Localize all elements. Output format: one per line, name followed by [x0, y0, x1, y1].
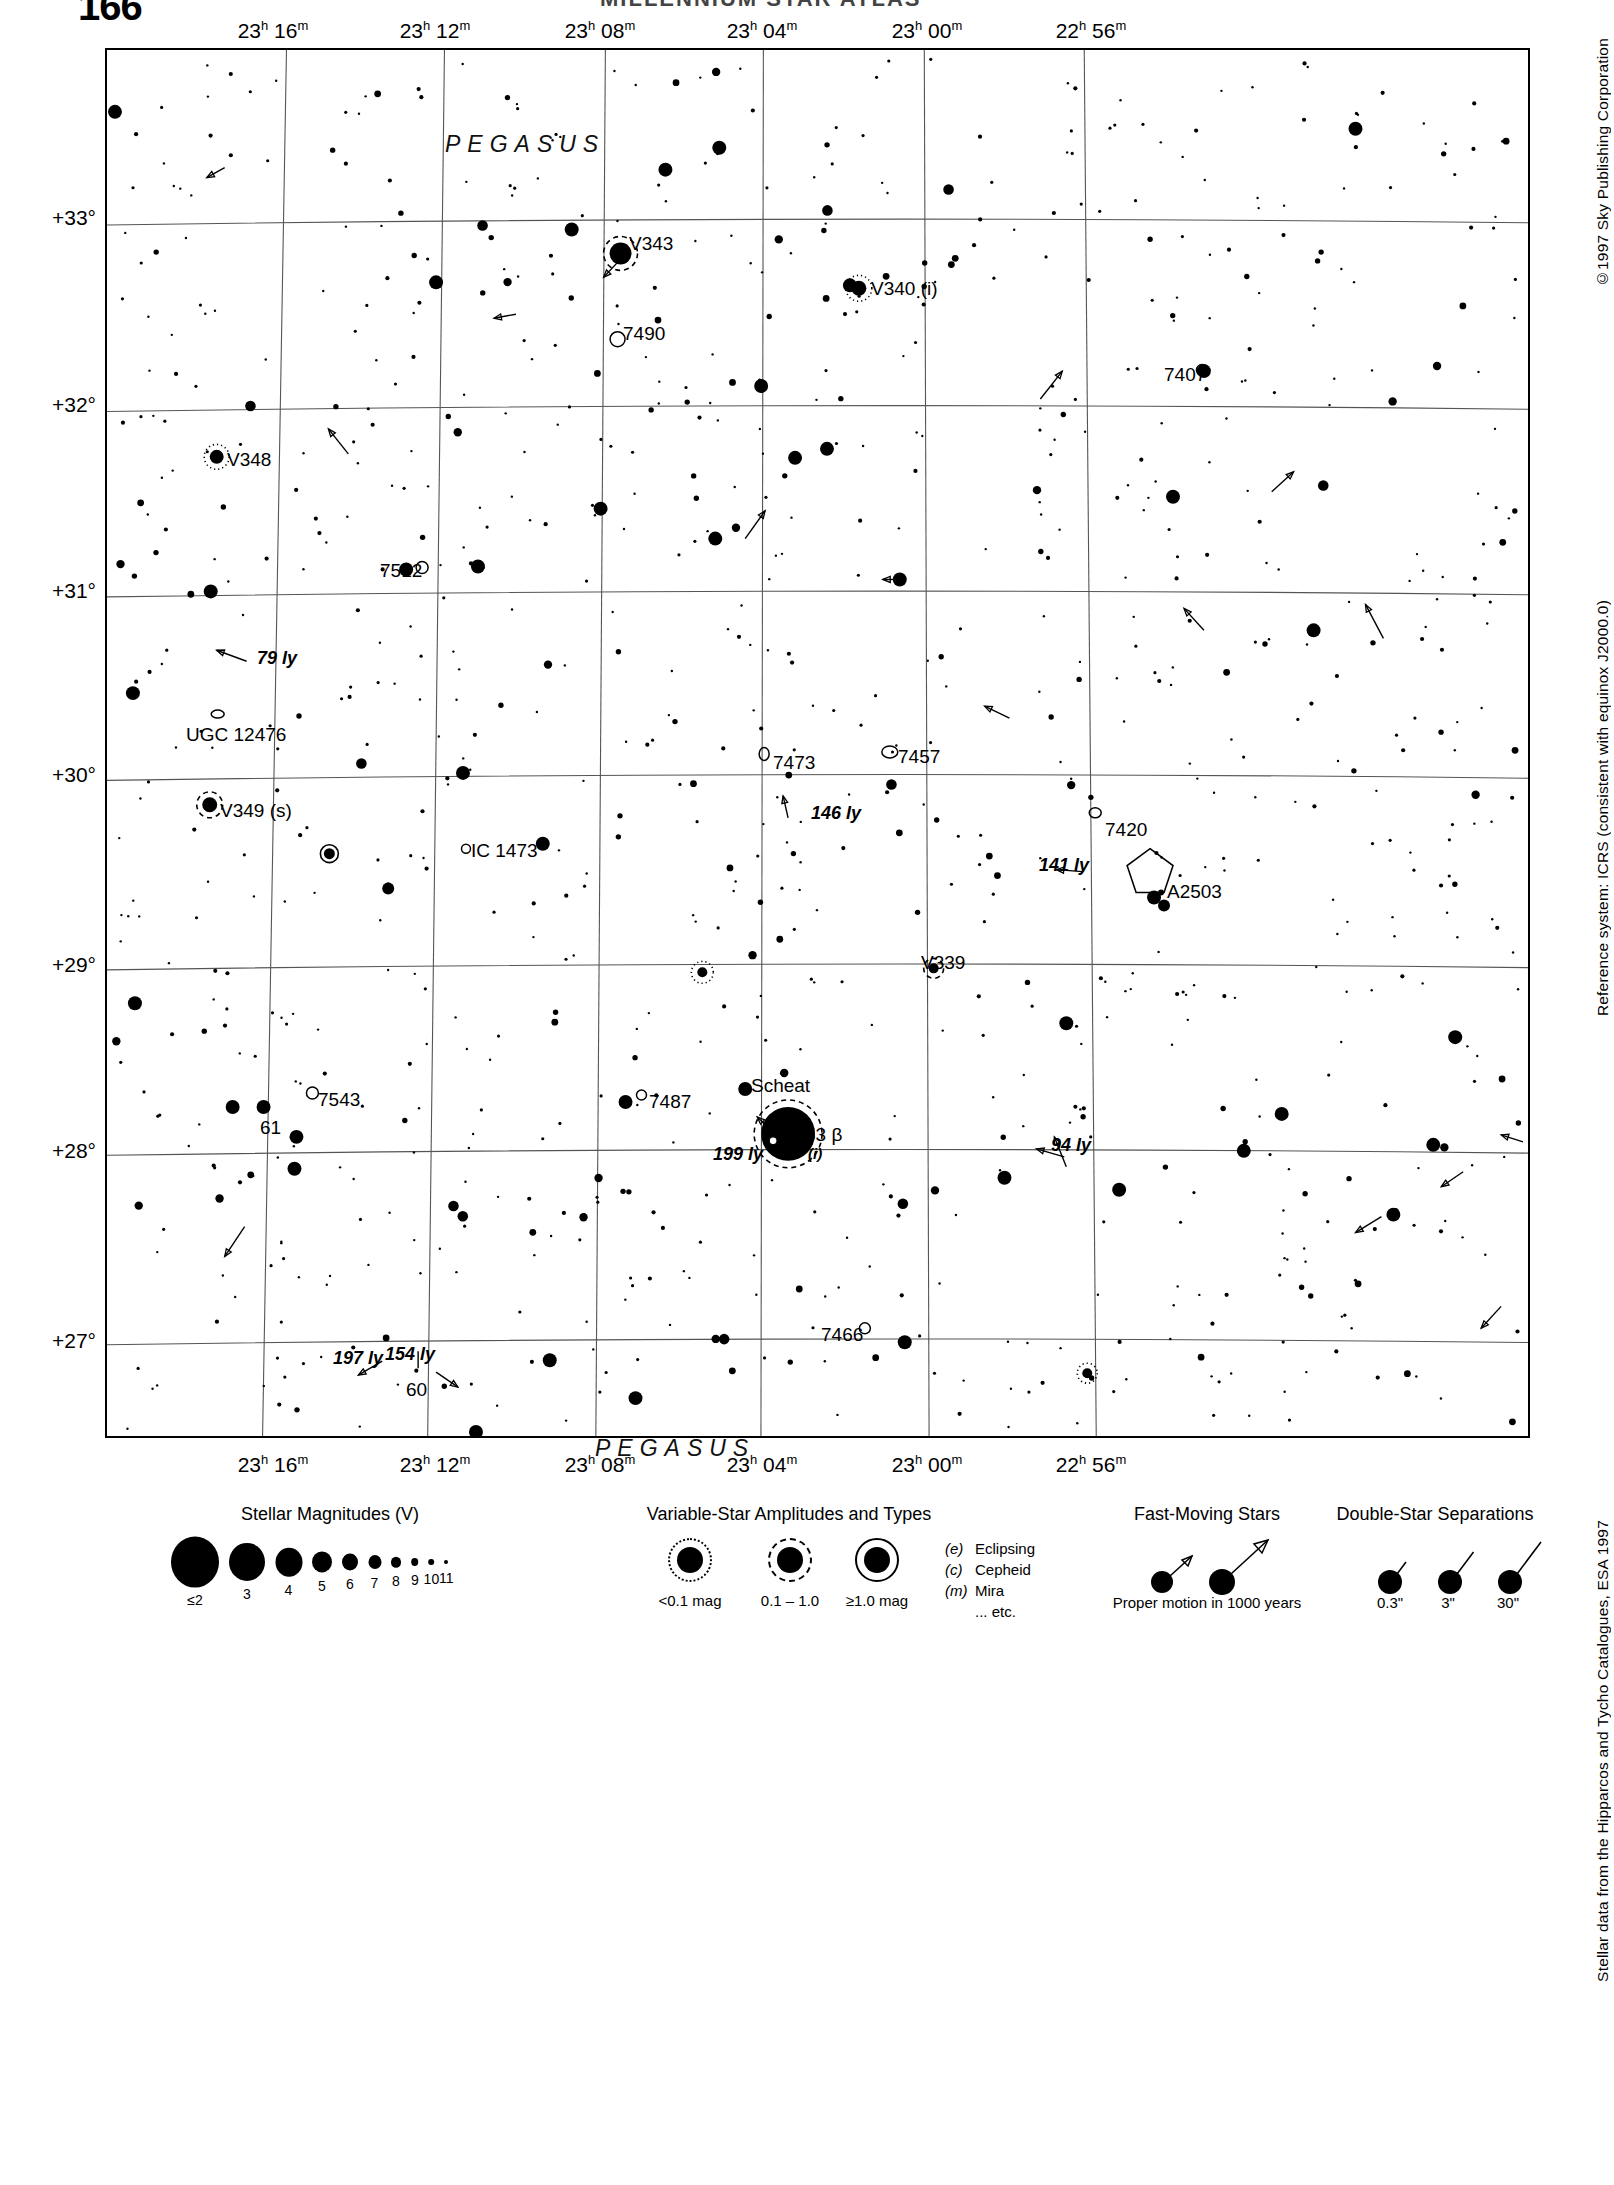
page-number-top: 166 — [78, 0, 142, 29]
magnitude-label-5: 7 — [371, 1575, 379, 1591]
object-label-7420: 7420 — [1105, 820, 1147, 839]
magnitude-dot-2 — [275, 1548, 302, 1577]
ra-tick-top-5: 22h 56m — [1056, 18, 1127, 43]
magnitude-label-4: 6 — [346, 1576, 354, 1592]
magnitude-label-0: ≤2 — [187, 1592, 202, 1608]
magnitude-label-3: 5 — [318, 1578, 326, 1594]
object-label-199-ly: 199 ly — [713, 1145, 763, 1163]
magnitude-dot-4 — [342, 1554, 358, 1571]
variable-type-row-1: (c)Cepheid — [945, 1561, 1031, 1578]
legend-title-doubles: Double-Star Separations — [1336, 1504, 1533, 1525]
ra-tick-bottom-1: 23h 12m — [400, 1452, 471, 1477]
object-label-v339: V339 — [921, 953, 965, 972]
object-label-197-ly: 197 ly — [333, 1349, 383, 1367]
ra-tick-bottom-4: 23h 00m — [892, 1452, 963, 1477]
legend-title-variables: Variable-Star Amplitudes and Types — [647, 1504, 932, 1525]
object-label-a2503: A2503 — [1167, 882, 1222, 901]
star-field-canvas — [107, 50, 1528, 1436]
ra-tick-top-0: 23h 16m — [238, 18, 309, 43]
object-label-146-ly: 146 ly — [811, 804, 861, 822]
magnitude-dot-7 — [411, 1558, 419, 1566]
copyright-note: ©1997 Sky Publishing Corporation — [1594, 38, 1612, 287]
magnitude-label-2: 4 — [285, 1582, 293, 1598]
legend-title-magnitudes: Stellar Magnitudes (V) — [241, 1504, 419, 1525]
variable-ring-solid — [855, 1538, 899, 1582]
object-label-7487: 7487 — [649, 1092, 691, 1111]
variable-ring-dashed — [768, 1538, 812, 1582]
object-label-94-ly: 94 ly — [1051, 1136, 1091, 1154]
object-label-7457: 7457 — [898, 747, 940, 766]
ra-tick-top-1: 23h 12m — [400, 18, 471, 43]
magnitude-label-8: 10 — [424, 1571, 440, 1587]
variable-amplitude-label-0: <0.1 mag — [659, 1592, 722, 1609]
dec-tick-0: +33° — [28, 206, 96, 230]
variable-type-code-1: (c) — [945, 1561, 975, 1578]
variable-type-code-0: (e) — [945, 1540, 975, 1557]
object-label--i-: (i) — [808, 1146, 822, 1161]
magnitude-dot-6 — [391, 1557, 401, 1568]
dec-tick-5: +28° — [28, 1139, 96, 1163]
object-label-v343: V343 — [629, 234, 673, 253]
double-separation-label-1: 3" — [1441, 1594, 1455, 1611]
object-label-scheat: Scheat — [751, 1076, 810, 1095]
variable-ring-dotted — [668, 1538, 712, 1582]
variable-type-name-2: Mira — [975, 1582, 1004, 1599]
magnitude-dot-5 — [368, 1555, 381, 1569]
magnitude-label-6: 8 — [392, 1573, 400, 1589]
constellation-label-1: PEGASUS — [595, 1435, 755, 1462]
variable-type-name-3: ... etc. — [975, 1603, 1016, 1620]
reference-system-note: Reference system: ICRS (consistent with … — [1594, 600, 1612, 1016]
variable-amplitude-label-1: 0.1 – 1.0 — [761, 1592, 819, 1609]
object-label-60: 60 — [406, 1380, 427, 1399]
magnitude-label-7: 9 — [411, 1572, 419, 1588]
magnitude-dot-0 — [171, 1537, 219, 1588]
star-chart-frame[interactable] — [105, 48, 1530, 1438]
ra-tick-bottom-0: 23h 16m — [238, 1452, 309, 1477]
object-label-ugc-12476: UGC 12476 — [186, 725, 286, 744]
ra-tick-bottom-5: 22h 56m — [1056, 1452, 1127, 1477]
object-label-v348: V348 — [227, 450, 271, 469]
variable-type-name-0: Eclipsing — [975, 1540, 1035, 1557]
object-label-v349-s-: V349 (s) — [220, 801, 292, 820]
dec-tick-1: +32° — [28, 393, 96, 417]
ra-tick-top-3: 23h 04m — [727, 18, 798, 43]
constellation-label-0: PEGASUS — [445, 131, 605, 158]
variable-type-name-1: Cepheid — [975, 1561, 1031, 1578]
object-label-61: 61 — [260, 1118, 281, 1137]
object-label-7490: 7490 — [623, 324, 665, 343]
ra-tick-top-2: 23h 08m — [565, 18, 636, 43]
magnitude-dot-1 — [229, 1543, 265, 1581]
magnitude-label-1: 3 — [243, 1586, 251, 1602]
double-separation-label-2: 30" — [1497, 1594, 1519, 1611]
object-label-7473: 7473 — [773, 753, 815, 772]
page-header-title: MILLENNIUM STAR ATLAS — [600, 0, 921, 12]
chart-legend: 1163 Stellar Magnitudes (V) ≤23456789101… — [0, 1500, 1614, 1730]
dec-tick-2: +31° — [28, 579, 96, 603]
object-label-141-ly: 141 ly — [1039, 856, 1089, 874]
object-label-7512: 7512 — [380, 561, 422, 580]
fast-moving-caption: Proper motion in 1000 years — [1113, 1594, 1301, 1611]
dec-tick-3: +30° — [28, 763, 96, 787]
magnitude-label-9: 11 — [439, 1570, 454, 1586]
variable-type-row-3: ... etc. — [945, 1603, 1016, 1620]
variable-type-row-2: (m)Mira — [945, 1582, 1004, 1599]
dec-tick-4: +29° — [28, 953, 96, 977]
legend-title-fast-moving: Fast-Moving Stars — [1134, 1504, 1280, 1525]
object-label-v340-i-: V340 (i) — [871, 279, 938, 298]
double-separation-label-0: 0.3" — [1377, 1594, 1403, 1611]
magnitude-dot-8 — [429, 1559, 435, 1565]
object-label-7466: 7466 — [821, 1325, 863, 1344]
variable-type-code-2: (m) — [945, 1582, 975, 1599]
object-label-79-ly: 79 ly — [257, 649, 297, 667]
ra-tick-top-4: 23h 00m — [892, 18, 963, 43]
object-label-7543: 7543 — [318, 1090, 360, 1109]
object-label-53-: 53 β — [805, 1125, 842, 1144]
variable-type-row-0: (e)Eclipsing — [945, 1540, 1035, 1557]
object-label-ic-1473: IC 1473 — [471, 841, 538, 860]
magnitude-dot-9 — [444, 1560, 448, 1564]
object-label-154-ly: 154 ly — [385, 1345, 435, 1363]
object-label-7407: 7407 — [1164, 365, 1206, 384]
dec-tick-6: +27° — [28, 1329, 96, 1353]
variable-amplitude-label-2: ≥1.0 mag — [846, 1592, 908, 1609]
magnitude-dot-3 — [312, 1551, 332, 1572]
